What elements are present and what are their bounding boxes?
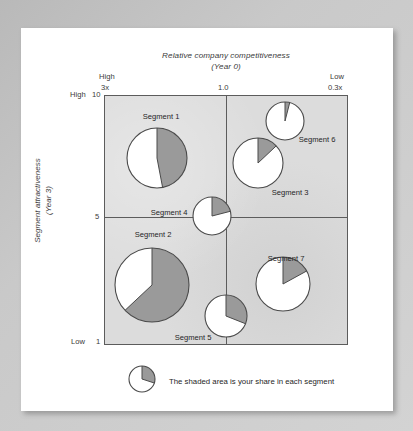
y-axis-title-line1: Segment attractiveness <box>33 131 44 271</box>
bubble-segment-7[interactable] <box>255 256 311 312</box>
chart-title-line1: Relative company competitiveness <box>104 51 348 62</box>
bubble-segment-1[interactable] <box>126 127 188 189</box>
label-segment-2: Segment 2 <box>135 230 172 239</box>
y-axis-tick-bottom: 1 <box>96 337 100 346</box>
chart-title: Relative company competitiveness (Year 0… <box>104 51 348 72</box>
y-axis-top-qualifier: High <box>70 90 86 99</box>
figure-root: Relative company competitiveness (Year 0… <box>0 0 413 431</box>
x-axis-right-qualifier: Low <box>330 72 344 81</box>
label-segment-4: Segment 4 <box>151 208 188 217</box>
y-axis-bottom-qualifier: Low <box>71 337 85 346</box>
y-axis-title: Segment attractiveness (Year 3) <box>33 131 54 271</box>
bubble-segment-4[interactable] <box>192 196 232 236</box>
bubble-segment-5[interactable] <box>204 294 248 338</box>
x-axis-tick-mid: 1.0 <box>218 83 229 92</box>
label-segment-5: Segment 5 <box>175 333 212 342</box>
x-axis-left-qualifier: High <box>99 72 115 81</box>
label-segment-7: Segment 7 <box>268 254 305 263</box>
label-segment-6: Segment 6 <box>299 135 336 144</box>
legend-label: The shaded area is your share in each se… <box>169 377 334 386</box>
x-axis-tick-left: 3x <box>101 83 109 92</box>
bubble-segment-2[interactable] <box>114 247 190 323</box>
y-axis-title-line2: (Year 3) <box>43 131 54 271</box>
legend: The shaded area is your share in each se… <box>128 365 334 397</box>
label-segment-1: Segment 1 <box>143 112 180 121</box>
plot-area: Segment 1 Segment 2 Segment 3 Segment 4 … <box>104 95 348 345</box>
chart-title-line2: (Year 0) <box>104 62 348 73</box>
y-axis-tick-mid: 5 <box>95 212 99 221</box>
label-segment-3: Segment 3 <box>272 188 309 197</box>
y-axis-tick-top: 10 <box>92 90 100 99</box>
bubble-segment-3[interactable] <box>232 137 284 189</box>
x-axis-tick-right: 0.3x <box>328 83 342 92</box>
legend-pie-icon <box>128 365 156 397</box>
